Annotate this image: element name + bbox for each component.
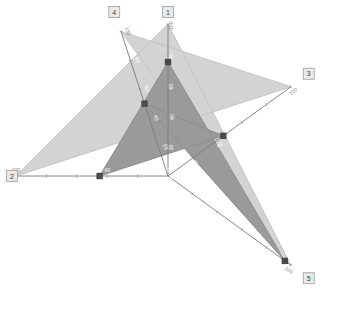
radar-chart-container: 0204060801000204060801000204060801000204… (0, 0, 337, 335)
axis-tick-label: 60 (74, 167, 80, 173)
axis-tick-label: 80 (169, 53, 175, 59)
axis-label-text-1: 1 (166, 9, 170, 16)
axis-tick-label: 40 (104, 167, 110, 173)
axis-label-text-3: 3 (307, 70, 311, 77)
axis-label-text-4: 4 (112, 9, 116, 16)
axis-label-text-2: 2 (10, 173, 14, 180)
axis-tick-label: 0 (172, 173, 179, 178)
axis-tick-label: 20 (186, 194, 194, 202)
axis-tick-label: 60 (240, 123, 248, 131)
axis-tick-label: 80 (264, 105, 272, 113)
axis-tick-label: 40 (169, 114, 175, 120)
data-vertex-marker-3 (220, 133, 226, 139)
axis-label-text-5: 5 (307, 275, 311, 282)
radar-chart-svg: 0204060801000204060801000204060801000204… (0, 0, 337, 335)
data-vertex-marker-5 (282, 258, 288, 264)
data-vertex-marker-4 (141, 101, 147, 107)
data-vertex-marker-1 (165, 59, 171, 65)
axis-tick-label: 60 (169, 84, 175, 90)
axis-tick-label: 80 (44, 167, 50, 173)
axis-tick-label: 20 (135, 167, 141, 173)
axis-tick-label: 80 (260, 248, 268, 256)
axis-tick-label: 40 (211, 212, 219, 220)
axis-tick-label: 100 (169, 21, 175, 30)
axis-tick-label: 100 (284, 265, 295, 275)
data-vertex-marker-2 (96, 173, 102, 179)
axis-tick-label: 60 (236, 230, 244, 238)
axis-tick-label: 0 (167, 167, 170, 173)
